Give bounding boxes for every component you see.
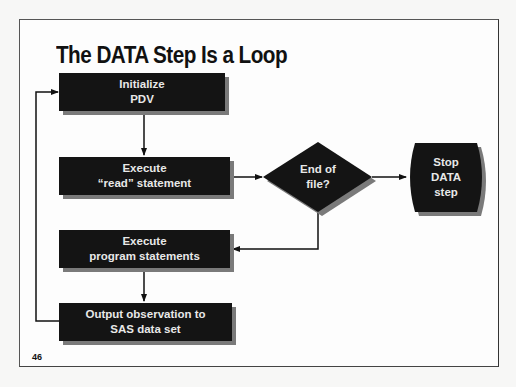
node-initialize-pdv: Initialize PDV xyxy=(59,73,225,111)
node-label: Stop xyxy=(410,155,482,170)
node-label: Initialize xyxy=(59,77,225,92)
node-label: program statements xyxy=(59,249,230,264)
node-label: file? xyxy=(278,177,358,192)
node-label: Execute xyxy=(59,234,230,249)
node-label: PDV xyxy=(59,92,225,107)
arrow-eof-to-exec xyxy=(233,212,318,249)
node-label: step xyxy=(410,185,482,200)
node-execute-program: Execute program statements xyxy=(59,230,230,268)
node-stop-data-step: Stop DATA step xyxy=(410,155,482,200)
node-output-observation: Output observation to SAS data set xyxy=(59,303,232,341)
node-end-of-file: End of file? xyxy=(278,162,358,192)
node-label: SAS data set xyxy=(59,322,232,337)
node-label: “read” statement xyxy=(59,176,230,191)
arrow-loop-back xyxy=(36,92,59,321)
node-execute-read: Execute “read” statement xyxy=(59,157,230,195)
node-label: Execute xyxy=(59,161,230,176)
node-label: Output observation to xyxy=(59,307,232,322)
node-label: End of xyxy=(278,162,358,177)
node-label: DATA xyxy=(410,170,482,185)
page-number: 46 xyxy=(32,352,42,362)
